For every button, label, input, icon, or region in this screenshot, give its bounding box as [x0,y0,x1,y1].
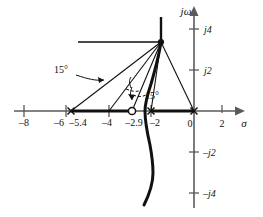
angle-leader-left-arrowhead [98,77,104,83]
root-locus-figure: –8 –6 –5.4 –4 –2.9 –2 0 2 j4 j2 –j2 –j4 … [0,0,263,217]
real-axis-label: σ [241,117,247,129]
y-tick-label-j4: j4 [202,24,212,35]
x-tick-label--6: –6 [53,117,64,128]
vector-line-from-0 [161,42,194,111]
x-tick-label-2: 2 [220,118,225,129]
zero-marker--2.9 [128,107,135,114]
x-tick-label--8: –8 [18,117,29,128]
y-tick-label--j4: –j4 [202,188,216,199]
y-tick-label--j2: –j2 [202,147,216,158]
axis-group [14,6,245,208]
test-point-marker [158,39,164,45]
x-tick-label--2.9: –2.9 [124,117,143,128]
angle-label-right: 15° [145,90,159,101]
y-tick-label-j2: j2 [202,65,212,76]
x-tick-label--2: –2 [149,117,160,128]
angle-annotation-leaders [76,75,146,100]
x-tick-label--5.4: –5.4 [68,117,87,128]
angle-leader-left-dashed [126,89,139,91]
imag-axis-label: jω [179,5,192,17]
real-axis-arrowhead [235,107,245,116]
root-locus-svg: –8 –6 –5.4 –4 –2.9 –2 0 2 j4 j2 –j2 –j4 … [0,0,263,217]
x-tick-label-0: 0 [188,118,193,129]
x-tick-label--4: –4 [101,117,112,128]
angle-label-left: 15° [54,64,68,75]
reference-lines-group [78,17,161,42]
vector-lines-group [71,42,194,111]
zero-markers-group [128,107,135,114]
